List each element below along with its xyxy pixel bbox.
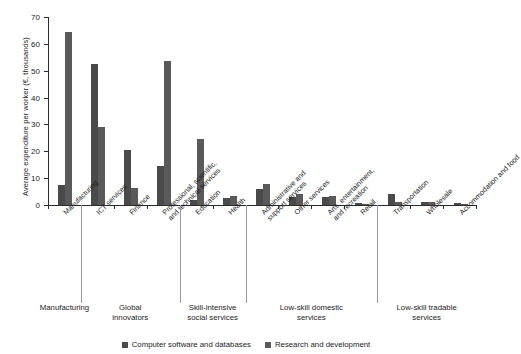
y-tick-label: 0 — [20, 201, 40, 210]
bar — [65, 32, 72, 205]
bar — [98, 127, 105, 205]
y-tick-label: 10 — [20, 174, 40, 183]
x-tick-mark — [114, 205, 115, 209]
y-tick-label: 70 — [20, 13, 40, 22]
group-caption: Low-skill tradableservices — [379, 303, 475, 322]
x-tick-mark — [213, 205, 214, 209]
bar — [124, 150, 131, 205]
bar-group — [214, 17, 247, 205]
group-caption-line: services — [379, 313, 475, 323]
legend-label: Computer software and databases — [132, 340, 251, 349]
x-tick-mark — [147, 205, 148, 209]
x-tick-mark — [443, 205, 444, 209]
group-caption-line: Low-skill tradable — [379, 303, 475, 313]
y-tick-label: 50 — [20, 66, 40, 75]
bar-group — [148, 17, 181, 205]
bar — [388, 194, 395, 205]
y-tick-mark — [44, 151, 48, 152]
group-caption-line: Skill-intensive — [165, 303, 261, 313]
y-tick-mark — [44, 178, 48, 179]
legend-item: Computer software and databases — [122, 340, 251, 349]
legend-item: Research and development — [265, 340, 370, 349]
y-tick-mark — [44, 17, 48, 18]
bar — [454, 203, 461, 205]
group-separator — [377, 205, 378, 303]
legend-swatch-icon — [122, 342, 128, 348]
bar-group — [82, 17, 115, 205]
legend-swatch-icon — [265, 342, 271, 348]
bar — [322, 197, 329, 205]
bar — [421, 202, 428, 205]
group-separator — [246, 205, 247, 303]
y-tick-label: 60 — [20, 39, 40, 48]
bar-group — [411, 17, 444, 205]
bar-group — [49, 17, 82, 205]
bar — [223, 198, 230, 205]
group-separator — [180, 205, 181, 303]
bar — [58, 185, 65, 205]
bar-group — [247, 17, 280, 205]
bar — [157, 166, 164, 205]
x-tick-mark — [476, 205, 477, 209]
bar-group — [312, 17, 345, 205]
bar-group — [378, 17, 411, 205]
x-tick-mark — [311, 205, 312, 209]
group-caption: Skill-intensivesocial services — [165, 303, 261, 322]
y-tick-label: 30 — [20, 120, 40, 129]
bar — [164, 61, 171, 205]
bar-series-group — [49, 17, 476, 205]
plot-area: 010203040506070 — [48, 17, 476, 205]
y-axis-title: Average expenditure per worker (€, thous… — [21, 22, 30, 212]
group-caption-line: social services — [165, 313, 261, 323]
group-caption-line: services — [263, 313, 359, 323]
y-tick-mark — [44, 98, 48, 99]
x-tick-mark — [410, 205, 411, 209]
bar-group — [444, 17, 477, 205]
bar-group — [115, 17, 148, 205]
legend-label: Research and development — [275, 340, 370, 349]
group-separator — [81, 205, 82, 303]
y-tick-mark — [44, 71, 48, 72]
y-tick-mark — [44, 44, 48, 45]
y-tick-label: 20 — [20, 147, 40, 156]
group-caption-line: Low-skill domestic — [263, 303, 359, 313]
x-tick-mark — [48, 205, 49, 209]
bar — [256, 189, 263, 205]
y-tick-label: 40 — [20, 93, 40, 102]
group-caption: Low-skill domesticservices — [263, 303, 359, 322]
y-tick-mark — [44, 124, 48, 125]
chart-legend: Computer software and databasesResearch … — [0, 340, 492, 349]
